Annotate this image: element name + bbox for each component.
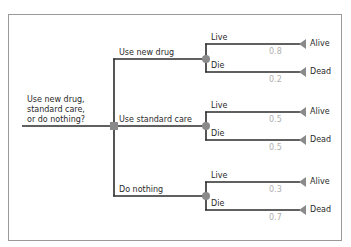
chance-node-circle-icon: [202, 55, 210, 63]
option-label: Use new drug: [119, 49, 174, 57]
probability-value: 0.8: [269, 48, 282, 56]
branch-label: Die: [211, 62, 224, 70]
decision-node-square-icon: [110, 122, 118, 130]
option-label: Use standard care: [119, 116, 192, 124]
end-label: Dead: [310, 206, 331, 214]
option-label: Do nothing: [119, 186, 163, 194]
probability-value: 0.3: [269, 186, 282, 194]
decision-question: Use new drug, standard care, or do nothi…: [27, 95, 85, 125]
terminal-node-triangle-icon: [299, 205, 306, 215]
probability-value: 0.7: [269, 214, 282, 222]
terminal-node-triangle-icon: [299, 177, 306, 187]
terminal-node-triangle-icon: [299, 39, 306, 49]
question-line: standard care,: [27, 105, 85, 115]
branch-label: Die: [211, 130, 224, 138]
branch-label: Live: [211, 102, 227, 110]
chance-node-circle-icon: [202, 192, 210, 200]
terminal-node-triangle-icon: [299, 67, 306, 77]
end-label: Alive: [310, 40, 330, 48]
probability-value: 0.5: [269, 116, 282, 124]
end-label: Alive: [310, 108, 330, 116]
branch-label: Live: [211, 34, 227, 42]
end-label: Dead: [310, 136, 331, 144]
terminal-node-triangle-icon: [299, 135, 306, 145]
terminal-node-triangle-icon: [299, 107, 306, 117]
chance-node-circle-icon: [202, 122, 210, 130]
question-line: or do nothing?: [27, 115, 85, 125]
branch-label: Die: [211, 200, 224, 208]
end-label: Dead: [310, 68, 331, 76]
end-label: Alive: [310, 178, 330, 186]
question-line: Use new drug,: [27, 95, 85, 105]
probability-value: 0.5: [269, 144, 282, 152]
probability-value: 0.2: [269, 76, 282, 84]
branch-label: Live: [211, 172, 227, 180]
